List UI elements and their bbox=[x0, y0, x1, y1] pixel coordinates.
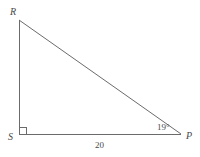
vertex-label-R: R bbox=[10, 7, 16, 17]
vertex-label-S: S bbox=[8, 132, 13, 142]
vertex-label-P: P bbox=[186, 131, 192, 141]
triangle-drawing bbox=[0, 0, 200, 157]
angle-measure-label-P: 19° bbox=[157, 123, 170, 132]
right-angle-marker-icon bbox=[19, 127, 26, 134]
triangle-side-RP bbox=[19, 20, 181, 134]
geometry-figure: R S P 19° 20 bbox=[0, 0, 200, 157]
side-length-label-SP: 20 bbox=[95, 141, 104, 150]
